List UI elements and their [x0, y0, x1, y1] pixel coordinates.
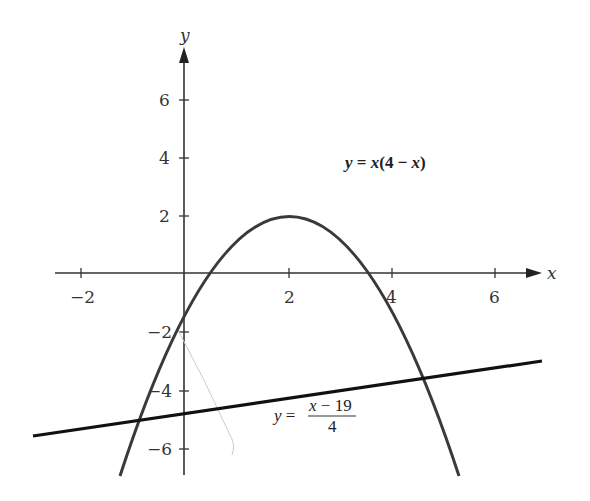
y-axis: y 6 4 2 −2 −4 −6 [147, 25, 190, 475]
chart: x −2 2 4 6 y 6 4 2 −2 −4 −6 y = x(4 − x) [0, 0, 590, 501]
svg-text:x − 19: x − 19 [308, 396, 352, 415]
x-tick-label: 6 [489, 287, 500, 307]
x-axis-label: x [547, 263, 557, 283]
y-tick-label: −6 [147, 439, 172, 459]
y-tick-label: −2 [147, 322, 172, 342]
y-tick-label: 4 [159, 148, 170, 168]
x-axis-arrow-icon [526, 268, 542, 278]
parabola-curve [120, 217, 459, 477]
pencil-mark [178, 330, 234, 455]
parabola-equation-label: y = x(4 − x) [343, 153, 426, 172]
line-equation-label: y = x − 19 4 [272, 396, 356, 436]
x-tick-label: −2 [70, 287, 95, 307]
y-axis-label: y [179, 25, 190, 45]
svg-text:y =: y = [272, 406, 295, 425]
svg-text:4: 4 [328, 417, 337, 436]
x-tick-label: 2 [284, 287, 295, 307]
y-tick-label: 6 [159, 90, 170, 110]
y-tick-label: 2 [159, 206, 170, 226]
y-axis-arrow-icon [179, 47, 189, 63]
x-axis: x −2 2 4 6 [55, 263, 557, 307]
